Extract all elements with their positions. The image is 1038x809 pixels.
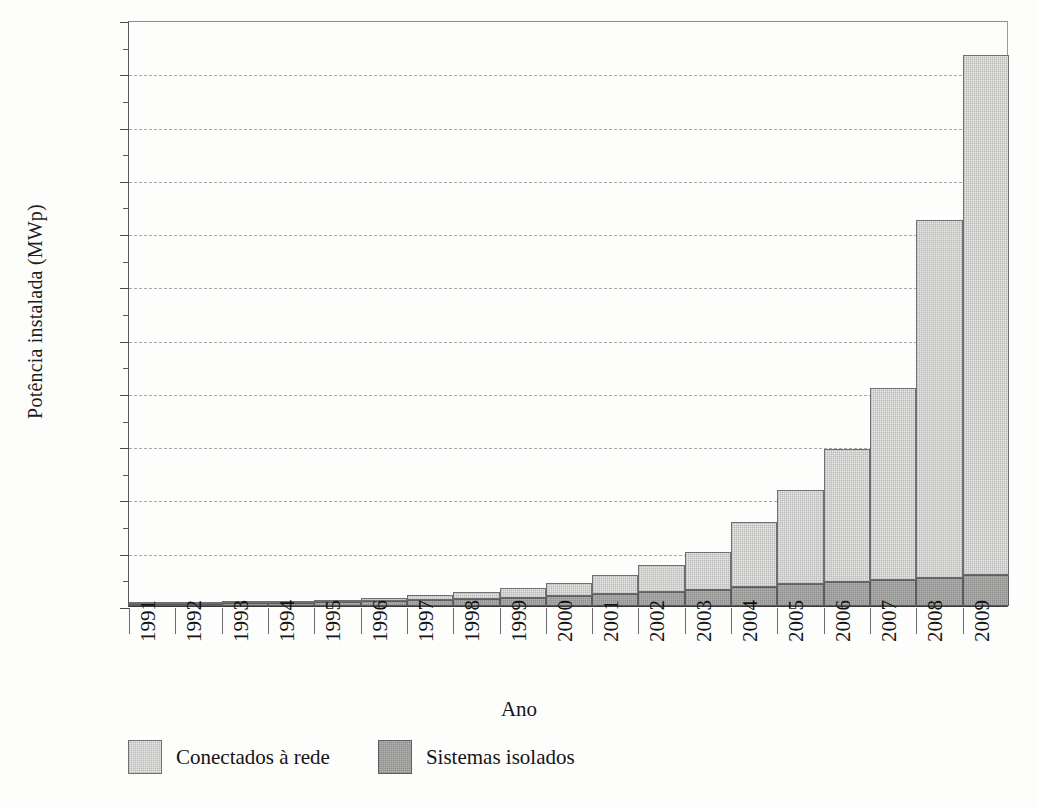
bar-group[interactable] [314, 20, 360, 606]
x-axis-tick [129, 608, 130, 634]
x-axis-tick [592, 608, 593, 634]
x-axis-tick [546, 608, 547, 634]
bar-group[interactable] [361, 20, 407, 606]
x-axis-tick [685, 608, 686, 634]
bar-group[interactable] [685, 20, 731, 606]
bar-group[interactable] [129, 20, 175, 606]
x-axis-tick-label: 2001 [601, 532, 622, 642]
y-axis-tick [120, 555, 129, 556]
plot-area: 02.0004.0006.0008.00010.00012.00014.0001… [128, 21, 1008, 607]
bar-group[interactable] [870, 20, 916, 606]
x-axis-tick-label: 1994 [277, 532, 298, 642]
y-axis-tick [120, 608, 129, 609]
x-axis-tick-label: 2009 [972, 532, 993, 642]
legend-swatch [378, 740, 412, 774]
y-axis-tick [120, 129, 129, 130]
x-axis-tick-label: 2006 [833, 532, 854, 642]
x-axis-tick-label: 1995 [323, 532, 344, 642]
bar-group[interactable] [824, 20, 870, 606]
bar-group[interactable] [268, 20, 314, 606]
x-axis-tick [453, 608, 454, 634]
legend-item[interactable]: Sistemas isolados [378, 740, 575, 774]
bar-group[interactable] [777, 20, 823, 606]
x-axis-tick [175, 608, 176, 634]
x-axis-tick-label: 1993 [231, 532, 252, 642]
bar-group[interactable] [222, 20, 268, 606]
bar-group[interactable] [916, 20, 962, 606]
bar-segment-conectados-a-rede[interactable] [963, 55, 1009, 575]
x-axis-tick-label: 1998 [462, 532, 483, 642]
x-axis-tick-label: 2005 [786, 532, 807, 642]
legend-item[interactable]: Conectados à rede [128, 740, 330, 774]
x-axis-tick [407, 608, 408, 634]
y-axis-tick [120, 182, 129, 183]
bar-segment-conectados-a-rede[interactable] [916, 220, 962, 578]
x-axis-tick-label: 1996 [370, 532, 391, 642]
x-axis-tick-label: 1999 [509, 532, 530, 642]
bar-group[interactable] [453, 20, 499, 606]
x-axis-tick [638, 608, 639, 634]
chart-legend: Conectados à redeSistemas isolados [128, 740, 575, 774]
y-axis-tick [120, 342, 129, 343]
x-axis-tick [777, 608, 778, 634]
y-axis-title: Potência instalada (MWp) [24, 92, 47, 532]
x-axis-tick-label: 2002 [647, 532, 668, 642]
legend-label: Conectados à rede [176, 745, 330, 770]
x-axis-tick [500, 608, 501, 634]
x-axis-tick-label: 2008 [925, 532, 946, 642]
x-axis-tick-label: 2000 [555, 532, 576, 642]
x-axis-tick [268, 608, 269, 634]
x-axis-tick-label: 1992 [184, 532, 205, 642]
x-axis-tick [361, 608, 362, 634]
x-axis-tick-label: 2004 [740, 532, 761, 642]
bar-group[interactable] [407, 20, 453, 606]
x-axis-tick [222, 608, 223, 634]
bar-group[interactable] [175, 20, 221, 606]
y-axis-tick [120, 288, 129, 289]
x-axis-tick-label: 1991 [138, 532, 159, 642]
x-axis-title: Ano [0, 697, 1038, 722]
y-axis-tick [120, 448, 129, 449]
x-axis-tick-label: 2007 [879, 532, 900, 642]
y-axis-tick [120, 501, 129, 502]
x-axis-tick [731, 608, 732, 634]
y-axis-tick [120, 75, 129, 76]
y-axis-tick [120, 22, 129, 23]
x-axis-tick [314, 608, 315, 634]
stacked-bar-chart: Potência instalada (MWp) 02.0004.0006.00… [0, 0, 1038, 809]
x-axis-tick [824, 608, 825, 634]
bar-group[interactable] [963, 20, 1009, 606]
legend-swatch [128, 740, 162, 774]
x-axis-tick [963, 608, 964, 634]
y-axis-tick [120, 235, 129, 236]
bar-group[interactable] [638, 20, 684, 606]
x-axis-tick-label: 2003 [694, 532, 715, 642]
y-axis-tick [120, 395, 129, 396]
x-axis-tick [870, 608, 871, 634]
bar-group[interactable] [592, 20, 638, 606]
x-axis-tick-label: 1997 [416, 532, 437, 642]
legend-label: Sistemas isolados [426, 745, 575, 770]
bar-group[interactable] [731, 20, 777, 606]
bars-layer [129, 22, 1007, 606]
x-axis-tick [916, 608, 917, 634]
bar-group[interactable] [546, 20, 592, 606]
bar-group[interactable] [500, 20, 546, 606]
